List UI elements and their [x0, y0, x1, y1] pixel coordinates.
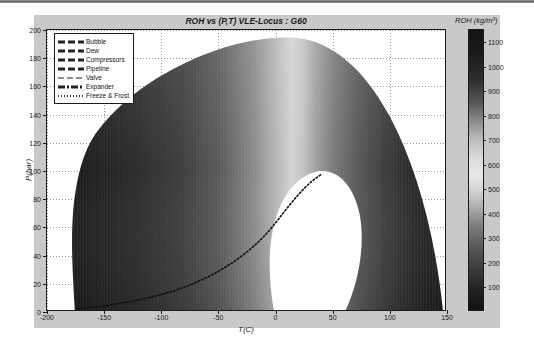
- legend-item-pipeline[interactable]: Pipeline: [58, 64, 129, 73]
- x-tick-label: -200: [40, 314, 54, 321]
- x-axis-label: T(C): [238, 325, 254, 334]
- y-tick: [43, 58, 47, 59]
- x-tick-label: 50: [329, 314, 337, 321]
- y-tick: [43, 227, 47, 228]
- x-tick-label: -100: [154, 314, 168, 321]
- legend-label: Expander: [86, 82, 114, 91]
- colorbar-tick: [483, 116, 486, 117]
- y-tick-label: 60: [33, 224, 41, 231]
- y-tick-label: 180: [29, 55, 41, 62]
- window-top-rule: [0, 0, 534, 3]
- colorbar-tick: [483, 67, 486, 68]
- y-tick-label: 80: [33, 196, 41, 203]
- legend-label: Bubble: [86, 37, 106, 46]
- legend-label: Dew: [86, 46, 99, 55]
- y-tick-label: 140: [29, 111, 41, 118]
- colorbar[interactable]: 10020030040050060070080090010001100: [468, 29, 484, 311]
- colorbar-tick-label: 100: [488, 284, 500, 291]
- y-tick: [43, 199, 47, 200]
- legend-line-swatch: [58, 73, 84, 82]
- legend-line-swatch: [58, 37, 84, 46]
- legend-item-expander[interactable]: Expander: [58, 82, 129, 91]
- y-tick: [43, 30, 47, 31]
- y-tick: [43, 171, 47, 172]
- colorbar-tick-label: 500: [488, 186, 500, 193]
- colorbar-tick: [483, 165, 486, 166]
- x-tick-label: -150: [97, 314, 111, 321]
- x-tick-label: 100: [384, 314, 396, 321]
- colorbar-tick-label: 600: [488, 161, 500, 168]
- colorbar-tick: [483, 287, 486, 288]
- colorbar-tick: [483, 189, 486, 190]
- figure-window: ROH vs (P,T) VLE-Locus : G60: [0, 0, 534, 349]
- colorbar-tick: [483, 238, 486, 239]
- colorbar-tick-label: 800: [488, 112, 500, 119]
- window-top-rule-inner: [0, 1, 534, 2]
- y-tick-label: 160: [29, 83, 41, 90]
- legend-label: Freeze & Frost: [86, 91, 129, 100]
- y-tick: [43, 143, 47, 144]
- legend-line-swatch: [58, 55, 84, 64]
- legend-line-swatch: [58, 46, 84, 55]
- x-tick-label: -50: [213, 314, 223, 321]
- colorbar-tick: [483, 91, 486, 92]
- y-tick: [43, 115, 47, 116]
- y-tick-label: 20: [33, 280, 41, 287]
- colorbar-tick-label: 1100: [488, 39, 503, 46]
- colorbar-tick-label: 400: [488, 210, 500, 217]
- y-tick: [43, 256, 47, 257]
- colorbar-tick: [483, 214, 486, 215]
- colorbar-tick-label: 900: [488, 88, 500, 95]
- legend-item-bubble[interactable]: Bubble: [58, 37, 129, 46]
- y-tick: [43, 284, 47, 285]
- colorbar-gradient: [469, 30, 483, 310]
- y-tick: [43, 86, 47, 87]
- y-tick-label: 120: [29, 139, 41, 146]
- legend[interactable]: BubbleDewCompressorsPipelineValveExpande…: [54, 33, 134, 104]
- colorbar-tick-label: 700: [488, 137, 500, 144]
- colorbar-title: ROH (kg/m³): [455, 16, 498, 25]
- colorbar-tick-label: 1000: [488, 63, 504, 70]
- colorbar-tick: [483, 263, 486, 264]
- legend-line-swatch: [58, 91, 84, 100]
- legend-item-freeze-frost[interactable]: Freeze & Frost: [58, 91, 129, 100]
- legend-label: Pipeline: [86, 64, 109, 73]
- y-tick-label: 40: [33, 252, 41, 259]
- legend-label: Compressors: [86, 55, 125, 64]
- colorbar-tick-label: 200: [488, 259, 500, 266]
- x-tick-label: 150: [441, 314, 453, 321]
- chart-title: ROH vs (P,T) VLE-Locus : G60: [46, 16, 446, 26]
- legend-line-swatch: [58, 82, 84, 91]
- legend-line-swatch: [58, 64, 84, 73]
- colorbar-tick: [483, 42, 486, 43]
- legend-item-dew[interactable]: Dew: [58, 46, 129, 55]
- legend-label: Valve: [86, 73, 102, 82]
- legend-item-compressors[interactable]: Compressors: [58, 55, 129, 64]
- y-axis-label: P(bar): [24, 159, 33, 181]
- colorbar-tick-label: 300: [488, 235, 500, 242]
- legend-item-valve[interactable]: Valve: [58, 73, 129, 82]
- colorbar-tick: [483, 140, 486, 141]
- x-tick-label: 0: [274, 314, 278, 321]
- y-tick-label: 200: [29, 27, 41, 34]
